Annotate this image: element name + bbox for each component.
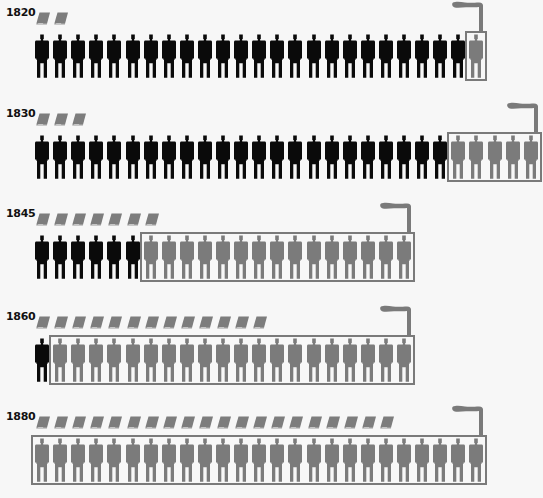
home-worker-icon (414, 34, 430, 78)
home-worker-icon (251, 135, 267, 179)
book-icon (36, 314, 50, 327)
year-row-1860: 1860 (0, 310, 543, 405)
book-icon (145, 414, 159, 427)
home-worker-icon (88, 34, 104, 78)
home-worker-icon (450, 34, 466, 78)
book-icon (199, 314, 213, 327)
home-worker-icon (52, 34, 68, 78)
book-icon (108, 314, 122, 327)
home-worker-icon (342, 135, 358, 179)
home-worker-icon (70, 235, 86, 279)
home-worker-icon (324, 135, 340, 179)
book-icon (36, 10, 50, 23)
home-worker-icon (197, 34, 213, 78)
year-row-1820: 1820 (0, 6, 543, 101)
home-worker-icon (378, 135, 394, 179)
year-label: 1830 (6, 107, 35, 120)
book-icon (54, 10, 68, 23)
home-worker-icon (143, 135, 159, 179)
book-icon (163, 314, 177, 327)
home-worker-icon (378, 34, 394, 78)
factory-outline (447, 132, 541, 182)
book-icon (217, 414, 231, 427)
home-worker-icon (233, 34, 249, 78)
home-worker-icon (269, 34, 285, 78)
home-worker-icon (143, 34, 159, 78)
factory-chimney-icon (451, 405, 487, 441)
book-icon (235, 414, 249, 427)
book-icon (72, 111, 86, 124)
year-label: 1880 (6, 410, 35, 423)
book-icon (271, 414, 285, 427)
home-worker-icon (125, 135, 141, 179)
year-row-1845: 1845 (0, 207, 543, 302)
book-icon (54, 314, 68, 327)
home-worker-icon (197, 135, 213, 179)
book-icon (127, 211, 141, 224)
home-worker-icon (52, 235, 68, 279)
book-icon (54, 211, 68, 224)
year-label: 1820 (6, 6, 35, 19)
book-icon (90, 211, 104, 224)
home-worker-icon (269, 135, 285, 179)
book-icon (72, 314, 86, 327)
book-icon (253, 314, 267, 327)
home-worker-icon (215, 135, 231, 179)
factory-outline (140, 232, 415, 282)
book-icon (90, 414, 104, 427)
book-icon (108, 414, 122, 427)
home-worker-icon (287, 135, 303, 179)
book-icon (127, 414, 141, 427)
book-icon (362, 414, 376, 427)
home-worker-icon (396, 34, 412, 78)
home-worker-icon (324, 34, 340, 78)
home-worker-icon (251, 34, 267, 78)
book-icon (181, 314, 195, 327)
home-worker-icon (70, 34, 86, 78)
book-icon (72, 414, 86, 427)
home-worker-icon (88, 235, 104, 279)
book-icon (380, 414, 394, 427)
book-icon (54, 414, 68, 427)
factory-chimney-icon (451, 1, 487, 37)
book-icon (145, 314, 159, 327)
home-worker-icon (125, 34, 141, 78)
home-worker-icon (34, 338, 50, 382)
home-worker-icon (70, 135, 86, 179)
home-worker-icon (106, 235, 122, 279)
book-icon (253, 414, 267, 427)
home-worker-icon (34, 34, 50, 78)
factory-chimney-icon (379, 305, 415, 341)
book-icon (308, 414, 322, 427)
home-worker-icon (287, 34, 303, 78)
factory-outline (49, 335, 415, 385)
factory-chimney-icon (379, 202, 415, 238)
book-icon (181, 414, 195, 427)
book-icon (235, 314, 249, 327)
home-worker-icon (125, 235, 141, 279)
book-icon (36, 211, 50, 224)
home-worker-icon (360, 135, 376, 179)
book-icon (217, 314, 231, 327)
book-icon (127, 314, 141, 327)
book-icon (145, 211, 159, 224)
home-worker-icon (179, 34, 195, 78)
home-worker-icon (432, 34, 448, 78)
home-worker-icon (306, 34, 322, 78)
home-worker-icon (52, 135, 68, 179)
home-worker-icon (414, 135, 430, 179)
book-icon (163, 414, 177, 427)
book-icon (54, 111, 68, 124)
home-worker-icon (306, 135, 322, 179)
book-icon (326, 414, 340, 427)
year-label: 1845 (6, 207, 35, 220)
factory-chimney-icon (506, 102, 542, 138)
home-worker-icon (34, 135, 50, 179)
home-worker-icon (106, 135, 122, 179)
home-worker-icon (88, 135, 104, 179)
home-worker-icon (233, 135, 249, 179)
home-worker-icon (161, 135, 177, 179)
book-icon (90, 314, 104, 327)
year-row-1830: 1830 (0, 107, 543, 202)
year-label: 1860 (6, 310, 35, 323)
